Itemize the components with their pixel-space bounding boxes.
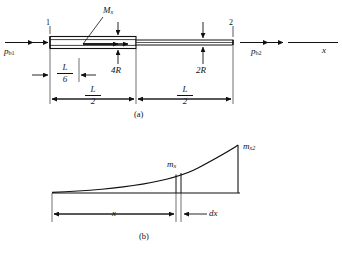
shaft-segment-thick	[50, 37, 136, 49]
peak-label-mx2: mx2	[243, 142, 255, 151]
dimension-label-L6: L 6	[57, 63, 73, 84]
node-label-2: 2	[229, 19, 233, 27]
dimension-label-dx: dx	[209, 209, 218, 218]
x-axis-label: x	[322, 46, 326, 55]
node-label-1: 1	[46, 19, 50, 27]
panel-a-shaft-assembly	[5, 17, 338, 104]
dimension-label-x: x	[112, 209, 116, 218]
moment-distribution-curve	[52, 145, 238, 192]
radius-label-4R: 4R	[111, 66, 121, 75]
curve-label-mx: mx	[167, 160, 176, 169]
caption-b: (b)	[139, 232, 149, 241]
dimension-label-L2-left: L 2	[85, 85, 101, 106]
engineering-figure	[0, 0, 342, 257]
caption-a: (a)	[134, 110, 143, 119]
dimension-label-L2-right: L 2	[177, 85, 193, 106]
load-label-right: pb2	[251, 47, 262, 56]
radius-label-2R: 2R	[196, 66, 206, 75]
moment-label: Mx	[103, 6, 113, 15]
load-label-left: pb1	[4, 47, 15, 56]
